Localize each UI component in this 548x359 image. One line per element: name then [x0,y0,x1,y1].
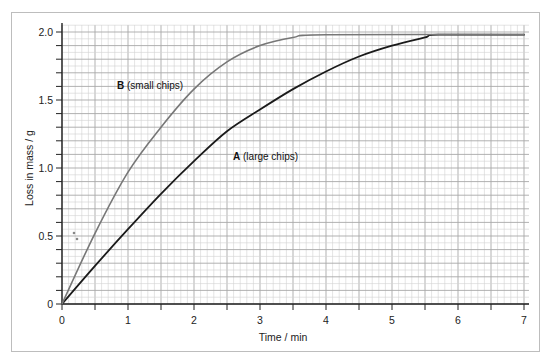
y-axis-ticks: 00.51.01.52.0 [38,26,62,310]
x-tick-label: 4 [323,314,329,326]
y-axis-title: Loss in mass / g [23,130,35,206]
y-tick-label: 0 [47,298,53,310]
x-tick-label: 2 [191,314,197,326]
x-axis-ticks: 01234567 [59,304,527,326]
axes [62,23,529,304]
x-tick-label: 5 [389,314,395,326]
y-tick-label: 0.5 [38,230,53,242]
line-chart: 00.51.01.52.0 01234567 B (small chips) A… [0,0,548,359]
x-tick-label: 7 [521,314,527,326]
y-tick-label: 2.0 [38,26,53,38]
series-a-label: A (large chips) [233,151,298,162]
y-tick-label: 1.5 [38,94,53,106]
x-axis-title: Time / min [259,331,308,343]
x-tick-label: 3 [257,314,263,326]
series-b-label: B (small chips) [117,80,183,91]
x-tick-label: 1 [125,314,131,326]
x-tick-label: 6 [455,314,461,326]
x-tick-label: 0 [59,314,65,326]
y-tick-label: 1.0 [38,162,53,174]
